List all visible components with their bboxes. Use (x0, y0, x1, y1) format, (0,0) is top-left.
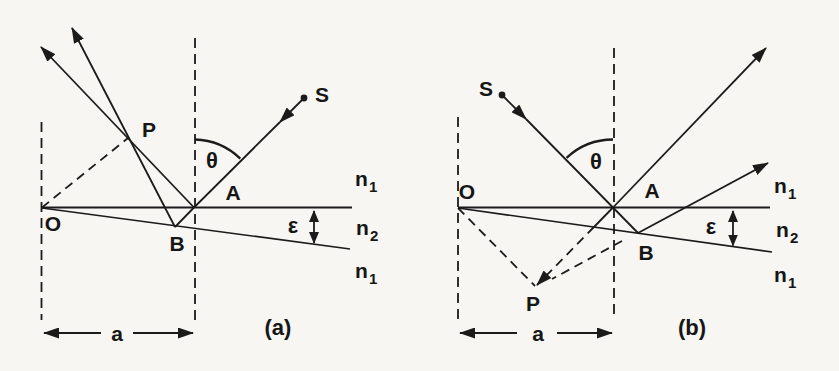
bottom-interface-wedge (42, 208, 350, 249)
panel-a: S P A B O θ ε a (a) n 1 n 2 n 1 (41, 28, 378, 345)
theta-label: θ (590, 149, 602, 174)
index-below-label: n 1 (355, 259, 377, 287)
point-a-label: A (225, 181, 240, 204)
source-point-dot (499, 92, 506, 99)
point-p-label: P (142, 118, 156, 141)
panel-caption: (a) (265, 315, 292, 340)
refracted-ray-internal (613, 208, 638, 234)
incident-ray (280, 98, 304, 122)
index-film-label: n 2 (356, 216, 378, 244)
source-point-dot (301, 95, 308, 102)
theta-label: θ (206, 148, 218, 173)
refracted-ray-internal (175, 208, 194, 228)
emerging-ray-from-b (72, 28, 175, 227)
construction-line-o-p (458, 208, 535, 286)
point-p-label: P (526, 292, 540, 315)
reflected-ray-extension-solid (594, 208, 613, 228)
wedge-interference-diagram: S P A B O θ ε a (a) n 1 n 2 n 1 (0, 0, 839, 371)
width-label: a (532, 322, 544, 345)
source-label: S (315, 83, 329, 106)
incident-ray (502, 95, 526, 119)
point-a-label: A (644, 179, 659, 202)
point-b-label: B (638, 241, 653, 264)
index-below-label: n 1 (774, 263, 796, 291)
source-label: S (479, 77, 493, 100)
figure-canvas: S P A B O θ ε a (a) n 1 n 2 n 1 (0, 0, 839, 371)
panel-caption: (b) (678, 315, 706, 340)
index-above-label: n 1 (774, 174, 796, 202)
reflected-ray-extension-dashed (537, 227, 594, 285)
epsilon-label: ε (288, 213, 299, 238)
construction-line-o-p (42, 138, 128, 208)
panel-b: S P A B O θ ε a (b) n 1 n 2 n 1 (458, 48, 798, 345)
index-above-label: n 1 (355, 167, 377, 195)
index-film-label: n 2 (776, 218, 798, 246)
reflected-ray (613, 48, 766, 208)
point-b-label: B (169, 232, 184, 255)
reflected-ray (41, 47, 194, 208)
epsilon-label: ε (706, 214, 717, 239)
origin-label: O (459, 180, 475, 203)
width-label: a (111, 322, 123, 345)
origin-label: O (45, 212, 61, 235)
